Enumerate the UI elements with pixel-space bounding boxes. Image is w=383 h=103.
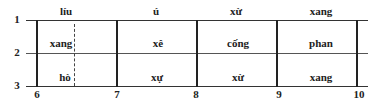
x-axis-label: 9 bbox=[276, 89, 282, 100]
top-label: líu bbox=[60, 6, 72, 17]
column-line-9 bbox=[276, 20, 278, 87]
row1-label: xang bbox=[50, 38, 73, 49]
top-label: ú bbox=[153, 6, 159, 17]
x-axis-label: 6 bbox=[34, 89, 40, 100]
column-line-10 bbox=[356, 20, 358, 87]
x-axis-label: 7 bbox=[114, 89, 120, 100]
row2-label: xang bbox=[310, 72, 333, 83]
x-axis-label: 10 bbox=[354, 89, 365, 100]
y-axis-label: 3 bbox=[14, 80, 20, 91]
column-line-8 bbox=[196, 20, 198, 87]
row2-label: hò bbox=[59, 72, 71, 83]
y-axis-label: 1 bbox=[14, 14, 20, 25]
row1-label: cống bbox=[227, 38, 249, 49]
row2-label: xừ bbox=[232, 72, 244, 83]
y-axis-label: 2 bbox=[14, 47, 20, 58]
x-axis-label: 8 bbox=[193, 89, 199, 100]
top-label: xang bbox=[310, 6, 333, 17]
row2-label: xự bbox=[151, 72, 163, 83]
column-line-6 bbox=[36, 20, 38, 87]
column-line-7 bbox=[116, 20, 118, 87]
row1-label: xê bbox=[153, 38, 163, 49]
dashed-divider bbox=[74, 24, 75, 86]
row1-label: phan bbox=[309, 38, 333, 49]
top-label: xừ bbox=[230, 6, 242, 17]
